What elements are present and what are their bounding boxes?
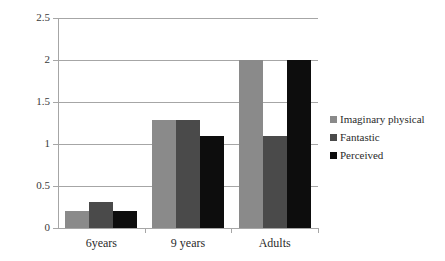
legend-label: Fantastic — [340, 131, 380, 143]
legend-swatch-icon — [330, 152, 337, 159]
y-axis-tick — [53, 102, 58, 103]
y-axis-tick-label: 1.5 — [36, 96, 50, 107]
legend-item: Perceived — [330, 146, 442, 164]
bar-groups — [58, 18, 318, 228]
bar — [152, 120, 176, 228]
y-axis-tick — [53, 60, 58, 61]
bar — [89, 202, 113, 228]
legend-item: Fantastic — [330, 128, 442, 146]
legend-label: Imaginary physical — [340, 113, 425, 125]
bar-group — [145, 18, 232, 228]
y-axis-labels: 00.511.522.5 — [0, 0, 50, 261]
bar — [263, 136, 287, 228]
x-axis-category-label: Adults — [231, 236, 318, 250]
bar — [113, 211, 137, 228]
y-axis-tick-label: 1 — [45, 138, 51, 149]
bar — [200, 136, 224, 228]
x-axis-category-label: 6years — [58, 236, 145, 250]
y-axis-tick-label: 0 — [45, 222, 51, 233]
y-axis-tick-label: 2.5 — [36, 12, 50, 23]
y-axis-tick — [53, 186, 58, 187]
legend-swatch-icon — [330, 116, 337, 123]
legend-swatch-icon — [330, 134, 337, 141]
bar — [65, 211, 89, 228]
bar — [239, 60, 263, 228]
chart-legend: Imaginary physicalFantasticPerceived — [330, 110, 442, 164]
x-axis-separator-tick — [318, 228, 319, 233]
bar — [176, 120, 200, 228]
y-axis-tick — [53, 228, 58, 229]
bar-group — [58, 18, 145, 228]
bar-chart: 00.511.522.5 6years9 yearsAdults Imagina… — [0, 0, 445, 261]
bar — [287, 60, 311, 228]
bar-group — [231, 18, 318, 228]
x-axis-separator-tick — [145, 228, 146, 233]
y-axis-tick — [53, 18, 58, 19]
y-axis-tick — [53, 144, 58, 145]
x-axis-category-label: 9 years — [145, 236, 232, 250]
x-axis-separator-tick — [231, 228, 232, 233]
legend-label: Perceived — [340, 149, 383, 161]
x-axis-line — [58, 228, 318, 229]
legend-item: Imaginary physical — [330, 110, 442, 128]
y-axis-tick-label: 0.5 — [36, 180, 50, 191]
y-axis-tick-label: 2 — [45, 54, 51, 65]
